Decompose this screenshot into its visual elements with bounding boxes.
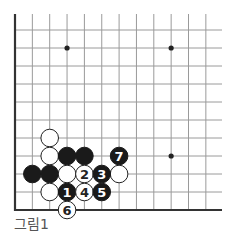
move-number: 2 [80,167,89,182]
black-stone [58,147,76,165]
black-stone-3: 3 [93,165,111,183]
move-number: 4 [80,185,89,200]
black-stone [41,165,59,183]
black-stone-1: 1 [58,183,76,201]
white-stone [58,165,76,183]
star-point-icon [169,153,174,158]
stones: 1234567 [24,129,128,219]
go-board: 1234567 [0,0,234,232]
white-stone [41,147,59,165]
move-number: 6 [63,203,72,218]
star-point-icon [169,45,174,50]
white-stone-2: 2 [76,165,94,183]
figure-caption: 그림1 [14,213,49,232]
white-stone-4: 4 [76,183,94,201]
black-stone [76,147,94,165]
white-stone [41,129,59,147]
black-stone-7: 7 [110,147,128,165]
white-stone-6: 6 [58,201,76,219]
white-stone [110,165,128,183]
move-number: 7 [115,149,124,164]
white-stone [41,183,59,201]
move-number: 3 [97,167,106,182]
star-point-icon [64,45,69,50]
move-number: 5 [97,185,106,200]
black-stone-5: 5 [93,183,111,201]
black-stone [24,165,42,183]
move-number: 1 [63,185,72,200]
